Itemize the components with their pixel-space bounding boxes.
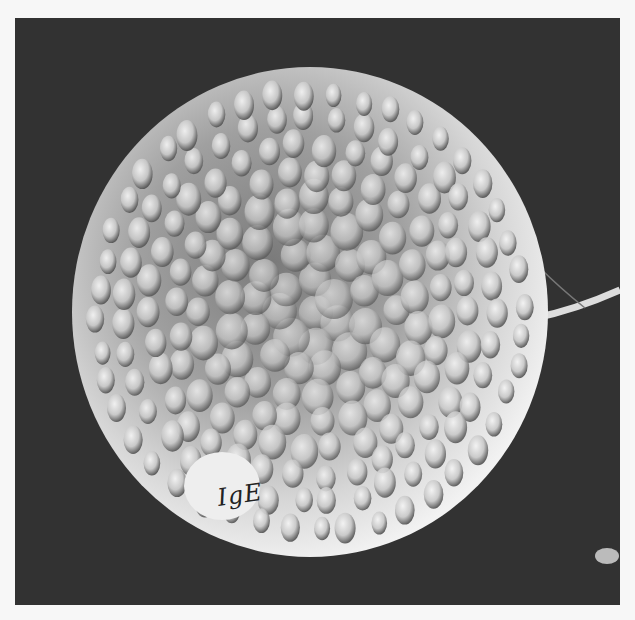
surface-bump <box>328 187 353 217</box>
surface-bump <box>262 81 282 111</box>
surface-bump <box>445 352 470 384</box>
surface-bump <box>372 512 388 535</box>
surface-bump <box>318 433 340 461</box>
surface-bump <box>444 411 467 443</box>
surface-bump <box>165 386 186 414</box>
surface-bump <box>149 353 173 384</box>
surface-bump <box>356 92 372 116</box>
surface-bump <box>395 432 415 458</box>
surface-bump <box>315 279 353 319</box>
surface-bump <box>86 306 104 333</box>
surface-bump <box>312 135 336 167</box>
surface-bump <box>216 313 248 350</box>
surface-bump <box>163 173 181 198</box>
surface-bump <box>185 231 207 258</box>
particle <box>595 548 619 564</box>
surface-bump <box>438 212 458 238</box>
surface-bump <box>354 113 375 142</box>
surface-bump <box>382 96 400 122</box>
surface-bump <box>328 108 346 133</box>
surface-bump <box>448 183 468 210</box>
surface-bump <box>116 342 134 367</box>
surface-bump <box>445 459 464 487</box>
surface-bump <box>499 230 516 256</box>
surface-bump <box>189 326 218 361</box>
surface-bump <box>410 145 428 170</box>
surface-bump <box>139 399 157 424</box>
surface-bump <box>278 158 302 188</box>
surface-bump <box>107 394 126 422</box>
surface-bump <box>489 198 506 222</box>
surface-bump <box>137 297 160 327</box>
surface-bump <box>225 377 251 408</box>
surface-bump <box>170 349 194 380</box>
surface-bump <box>487 298 508 327</box>
surface-bump <box>132 159 153 189</box>
surface-bump <box>295 488 313 513</box>
surface-bump <box>387 191 409 219</box>
surface-bump <box>453 147 471 174</box>
surface-bump <box>145 329 166 357</box>
surface-bump <box>335 513 356 544</box>
surface-bump <box>100 249 117 274</box>
surface-bump <box>170 259 192 286</box>
surface-bump <box>204 169 226 198</box>
surface-bump <box>282 460 303 488</box>
surface-bump <box>347 459 367 486</box>
surface-bump <box>428 305 455 339</box>
surface-bump <box>91 275 111 304</box>
surface-bump <box>425 439 446 468</box>
surface-bump <box>234 91 254 121</box>
surface-bump <box>215 280 245 314</box>
surface-bump <box>281 513 300 541</box>
surface-bump <box>511 353 528 378</box>
surface-bump <box>374 467 396 497</box>
surface-bump <box>481 331 501 358</box>
surface-bump <box>513 324 529 348</box>
surface-bump <box>456 296 478 325</box>
surface-bump <box>161 420 184 451</box>
surface-bump <box>454 270 474 296</box>
surface-bump <box>120 248 142 278</box>
surface-bump <box>473 362 492 388</box>
surface-bump <box>186 298 210 326</box>
surface-bump <box>242 225 273 260</box>
surface-bump <box>167 469 186 497</box>
surface-bump <box>103 218 120 243</box>
surface-bump <box>250 169 274 199</box>
surface-bump <box>509 255 528 283</box>
surface-bump <box>394 163 417 193</box>
surface-bump <box>121 187 139 213</box>
surface-bump <box>468 435 488 465</box>
surface-bump <box>187 379 213 412</box>
surface-bump <box>395 496 415 525</box>
surface-bump <box>97 367 115 393</box>
surface-bump <box>445 238 467 267</box>
surface-bump <box>160 136 177 162</box>
surface-bump <box>128 217 150 248</box>
surface-bump <box>294 82 314 111</box>
surface-bump <box>208 102 226 128</box>
surface-bump <box>419 414 439 440</box>
surface-bump <box>165 287 188 316</box>
micrograph-svg <box>15 18 620 605</box>
surface-bump <box>274 188 299 218</box>
surface-bump <box>476 237 498 268</box>
surface-bump <box>424 480 444 509</box>
surface-bump <box>430 274 452 301</box>
surface-bump <box>432 127 448 151</box>
surface-bump <box>165 210 185 236</box>
surface-bump <box>151 237 174 267</box>
surface-bump <box>398 386 424 418</box>
surface-bump <box>249 259 279 292</box>
micrograph-frame: IgE <box>15 18 620 605</box>
surface-bump <box>210 403 235 434</box>
surface-bump <box>232 150 252 176</box>
surface-bump <box>516 294 534 320</box>
surface-bump <box>253 508 270 533</box>
surface-bump <box>112 308 134 339</box>
surface-bump <box>406 110 423 135</box>
surface-bump <box>414 361 440 394</box>
surface-bump <box>372 260 404 296</box>
surface-bump <box>317 487 336 514</box>
